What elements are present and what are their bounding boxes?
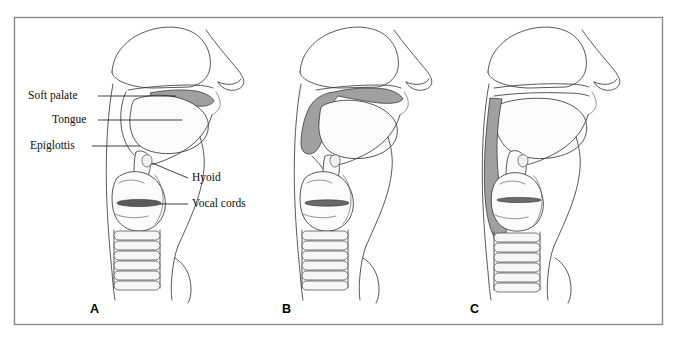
label-vocal-cords: Vocal cords: [192, 198, 246, 210]
panel-letter-a: A: [90, 303, 99, 316]
label-tongue: Tongue: [52, 114, 86, 126]
tracheal-ring-a-1: [114, 231, 160, 240]
panel-letter-b: B: [282, 303, 291, 316]
tracheal-ring-a-5: [114, 271, 160, 280]
hyoid-bone-c: [518, 155, 528, 167]
tracheal-ring-c-5: [494, 273, 540, 282]
tracheal-ring-a-3: [114, 251, 160, 260]
tracheal-ring-a-2: [114, 241, 160, 250]
tracheal-ring-c-3: [494, 253, 540, 262]
vocal-cords-a: [117, 199, 161, 206]
vocal-tract-diagram: [0, 0, 677, 339]
hyoid-bone-a: [142, 155, 152, 167]
tracheal-ring-a-4: [114, 261, 160, 270]
trachea-b: [302, 230, 348, 290]
tracheal-ring-c-6: [494, 283, 540, 292]
tracheal-ring-b-1: [302, 231, 348, 240]
tracheal-ring-b-4: [302, 261, 348, 270]
tracheal-ring-b-6: [302, 281, 348, 290]
tracheal-ring-b-5: [302, 271, 348, 280]
tracheal-ring-c-2: [494, 243, 540, 252]
label-soft-palate: Soft palate: [28, 90, 78, 102]
figure-root: Soft palate Tongue Epiglottis Hyoid Voca…: [0, 0, 677, 339]
tracheal-ring-b-3: [302, 251, 348, 260]
tracheal-ring-b-2: [302, 241, 348, 250]
tracheal-ring-a-6: [114, 281, 160, 290]
trachea-a: [114, 230, 160, 290]
panel-letter-c: C: [470, 303, 479, 316]
vocal-cords-c: [497, 197, 541, 202]
hyoid-bone-b: [330, 155, 340, 167]
label-epiglottis: Epiglottis: [30, 140, 75, 152]
vocal-cords-b: [305, 200, 349, 206]
tracheal-ring-c-4: [494, 263, 540, 272]
trachea-c: [494, 232, 540, 292]
tracheal-ring-c-1: [494, 233, 540, 242]
label-hyoid: Hyoid: [192, 172, 221, 184]
tongue-body-c: [495, 98, 587, 158]
